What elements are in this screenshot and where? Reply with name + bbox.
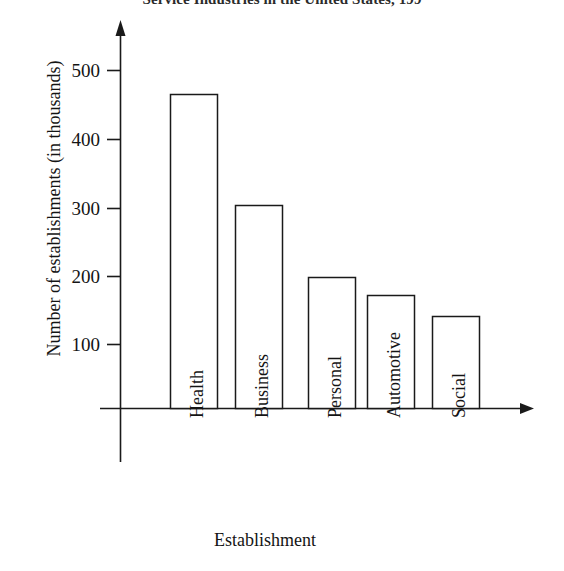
y-axis bbox=[116, 20, 126, 462]
arrow-right-icon bbox=[520, 403, 534, 414]
chart-figure: Service Industries in the United States,… bbox=[0, 0, 564, 571]
y-tick-marks bbox=[107, 71, 121, 345]
xcat-label-social: Social bbox=[449, 278, 470, 418]
x-axis-title: Establishment bbox=[120, 530, 410, 551]
y-axis-title: Number of establishments (in thousands) bbox=[44, 7, 65, 411]
xcat-label-health: Health bbox=[187, 278, 208, 418]
xcat-label-business: Business bbox=[252, 278, 273, 418]
arrow-up-icon bbox=[116, 20, 126, 36]
xcat-label-personal: Personal bbox=[325, 278, 346, 418]
xcat-label-automotive: Automotive bbox=[384, 278, 405, 418]
